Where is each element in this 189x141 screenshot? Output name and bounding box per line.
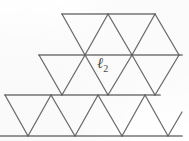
lattice-diagonal [122,95,145,136]
lattice-diagonal [132,55,155,95]
lattice-diagonal [62,14,85,55]
lattice-figure: ℓ2 [0,0,189,141]
cell-label-subscript: 2 [103,63,108,74]
lattice-diagonal [62,55,85,95]
lattice-diagonal [108,14,132,55]
horizontal-lines-group [0,14,182,136]
lattice-diagonal [75,95,98,136]
lattice-diagonal [168,112,182,136]
cell-label: ℓ2 [97,56,108,74]
diagonal-lines-group [5,14,182,136]
lattice-diagonal [145,95,168,136]
lattice-diagonal [28,95,51,136]
lattice-diagonal [108,55,132,95]
lattice-diagonal [39,55,62,95]
lattice-diagonal [132,14,155,55]
lattice-diagonal [85,14,108,55]
lattice-diagonal [155,14,179,55]
lattice-diagonal [51,95,75,136]
lattice-diagonal [5,95,28,136]
lattice-diagonal [98,95,122,136]
lattice-diagonal [155,55,179,95]
triangular-lattice-svg [0,0,189,141]
